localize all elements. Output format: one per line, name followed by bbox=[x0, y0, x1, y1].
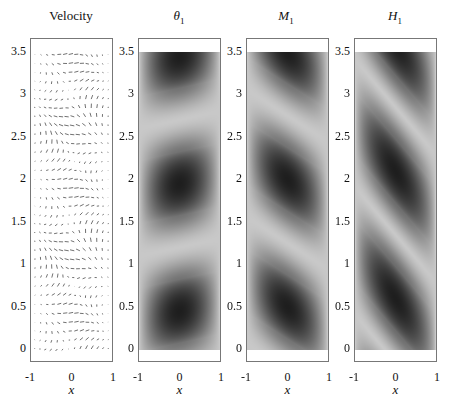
y-tick-label: 1.5 bbox=[328, 215, 350, 227]
m1-title: M1 bbox=[241, 8, 331, 26]
h1-plot bbox=[354, 38, 437, 362]
m1-title-main: M bbox=[278, 8, 289, 23]
y-tick-label: 1 bbox=[112, 257, 134, 269]
y-tick-label: 0 bbox=[4, 342, 26, 354]
y-tick-label: 3.5 bbox=[4, 45, 26, 57]
y-tick-label: 2 bbox=[328, 172, 350, 184]
y-tick-label: 0.5 bbox=[4, 300, 26, 312]
y-tick-label: 3.5 bbox=[328, 45, 350, 57]
x-tick-label: -1 bbox=[236, 370, 256, 385]
y-tick-label: 0 bbox=[328, 342, 350, 354]
y-tick-label: 0 bbox=[112, 342, 134, 354]
theta1-plot bbox=[138, 38, 221, 362]
x-tick-label: 1 bbox=[211, 370, 231, 385]
y-tick-label: 1.5 bbox=[112, 215, 134, 227]
m1-heatmap bbox=[247, 39, 328, 361]
y-tick-label: 2 bbox=[4, 172, 26, 184]
x-tick-label: 1 bbox=[103, 370, 123, 385]
theta1-title-sub: 1 bbox=[180, 16, 185, 26]
h1-title-sub: 1 bbox=[397, 16, 402, 26]
y-tick-label: 3 bbox=[112, 87, 134, 99]
m1-plot bbox=[246, 38, 329, 362]
y-tick-label: 1 bbox=[4, 257, 26, 269]
theta1-title: θ1 bbox=[134, 8, 224, 26]
x-axis-label: x bbox=[278, 382, 298, 398]
y-tick-label: 3.5 bbox=[112, 45, 134, 57]
x-tick-label: 1 bbox=[427, 370, 447, 385]
x-axis-label: x bbox=[62, 382, 82, 398]
y-tick-label: 2 bbox=[220, 172, 242, 184]
x-axis-label: x bbox=[386, 382, 406, 398]
y-tick-label: 3.5 bbox=[220, 45, 242, 57]
y-tick-label: 2 bbox=[112, 172, 134, 184]
velocity-title: Velocity bbox=[26, 8, 116, 24]
y-tick-label: 1.5 bbox=[220, 215, 242, 227]
y-tick-label: 0 bbox=[220, 342, 242, 354]
velocity-plot bbox=[30, 38, 113, 362]
m1-title-sub: 1 bbox=[289, 16, 294, 26]
x-tick-label: 1 bbox=[319, 370, 339, 385]
y-tick-label: 1 bbox=[220, 257, 242, 269]
x-tick-label: -1 bbox=[128, 370, 148, 385]
velocity-quiver bbox=[31, 39, 112, 361]
y-tick-label: 3 bbox=[4, 87, 26, 99]
y-tick-label: 3 bbox=[220, 87, 242, 99]
h1-heatmap bbox=[355, 39, 436, 361]
y-tick-label: 2.5 bbox=[220, 130, 242, 142]
y-tick-label: 1.5 bbox=[4, 215, 26, 227]
h1-title: H1 bbox=[350, 8, 440, 26]
y-tick-label: 2.5 bbox=[112, 130, 134, 142]
x-tick-label: -1 bbox=[20, 370, 40, 385]
y-tick-label: 0.5 bbox=[220, 300, 242, 312]
y-tick-label: 2.5 bbox=[4, 130, 26, 142]
y-tick-label: 3 bbox=[328, 87, 350, 99]
y-tick-label: 2.5 bbox=[328, 130, 350, 142]
theta1-heatmap bbox=[139, 39, 220, 361]
x-tick-label: -1 bbox=[344, 370, 364, 385]
y-tick-label: 1 bbox=[328, 257, 350, 269]
x-axis-label: x bbox=[170, 382, 190, 398]
y-tick-label: 0.5 bbox=[112, 300, 134, 312]
y-tick-label: 0.5 bbox=[328, 300, 350, 312]
